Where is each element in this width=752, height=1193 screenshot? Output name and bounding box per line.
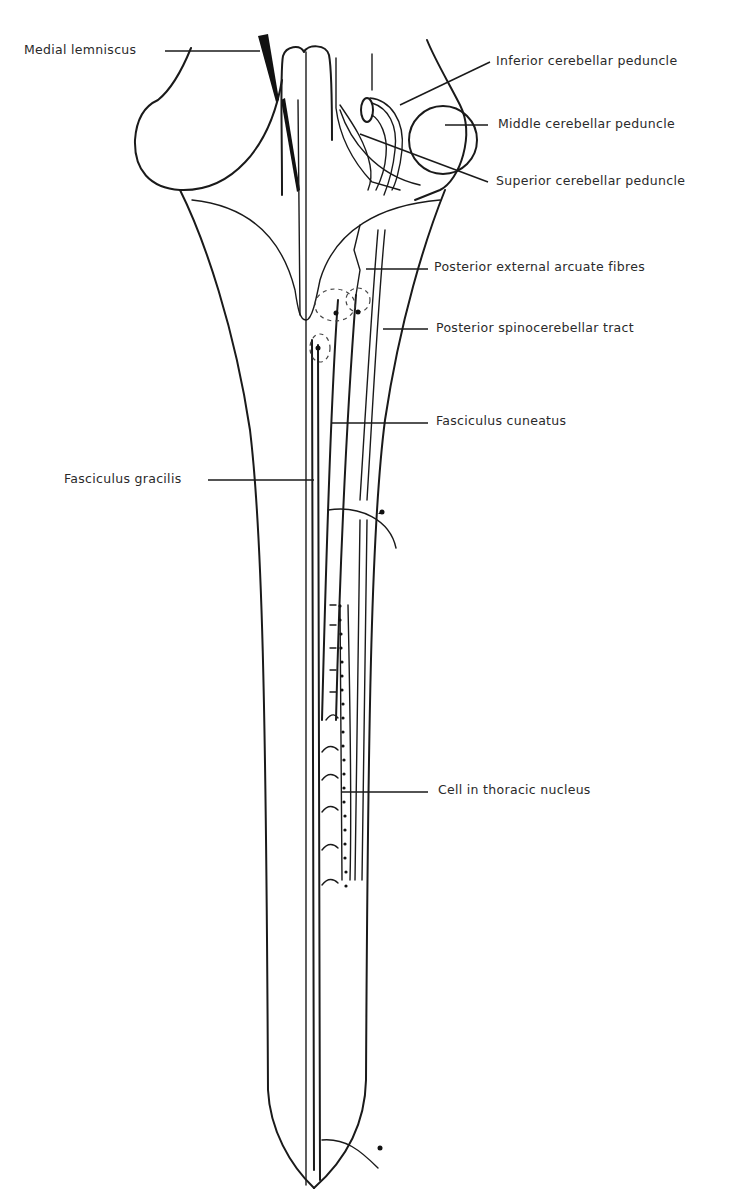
- peduncle-cross-section: [361, 98, 373, 122]
- dorsal-root-lower: [322, 1140, 383, 1168]
- label-medial-lemniscus: Medial lemniscus: [24, 42, 136, 57]
- dorsal-root-upper: [328, 509, 396, 548]
- label-inferior-cerebellar-peduncle: Inferior cerebellar peduncle: [496, 53, 677, 68]
- label-cell-in-thoracic-nucleus: Cell in thoracic nucleus: [438, 782, 591, 797]
- label-superior-cerebellar-peduncle: Superior cerebellar peduncle: [496, 173, 685, 188]
- label-fasciculus-cuneatus: Fasciculus cuneatus: [436, 413, 566, 428]
- thoracic-nucleus-cells: [322, 604, 351, 887]
- label-posterior-external-arcuate-fibres: Posterior external arcuate fibres: [434, 259, 645, 274]
- tract-lines: [312, 225, 385, 1180]
- left-peduncle-lobe: [135, 48, 282, 190]
- right-upper-tracts: [336, 40, 477, 200]
- label-posterior-spinocerebellar-tract: Posterior spinocerebellar tract: [436, 320, 634, 335]
- medulla-inner-curves: [192, 100, 440, 320]
- label-fasciculus-gracilis: Fasciculus gracilis: [64, 471, 181, 486]
- label-middle-cerebellar-peduncle: Middle cerebellar peduncle: [498, 116, 675, 131]
- medial-lemniscus-wedge: [258, 34, 300, 192]
